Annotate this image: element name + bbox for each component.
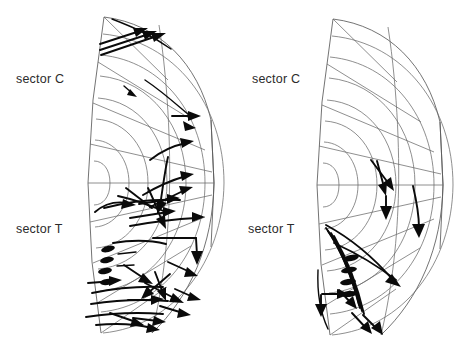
right-panel-sector-c-label: sector C [252,72,300,86]
right-panel-sector-t-label: sector T [248,222,295,236]
left-panel-sector-c-label: sector C [16,72,64,86]
sector-flow-figure [0,0,465,350]
left-panel-sector-t-label: sector T [16,222,63,236]
right-panel-grid [317,19,453,335]
figure-root: sector C sector T sector C sector T [0,0,465,350]
right-panel-vectors [315,160,425,335]
